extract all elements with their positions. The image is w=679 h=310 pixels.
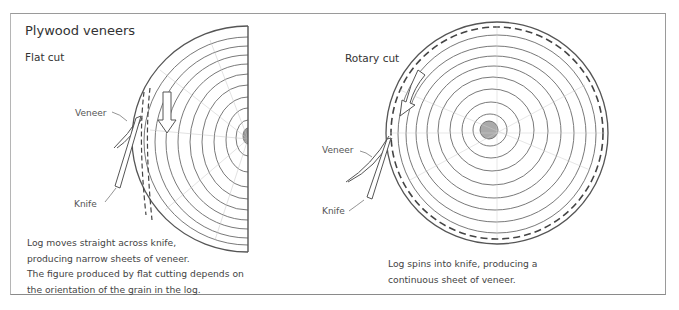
rotary-veneer-shape (346, 136, 392, 182)
caption-line: the orientation of the grain in the log. (27, 282, 244, 298)
flat-cut-knife-shape (115, 116, 141, 188)
caption-line: Log spins into knife, producing a (388, 256, 537, 272)
leader-lines-rotary (349, 151, 372, 211)
rotary-cut-knife-label: Knife (322, 206, 345, 216)
rotary-cut-heading: Rotary cut (345, 52, 399, 64)
arrow-down-icon (158, 92, 176, 133)
caption-line: producing narrow sheets of veneer. (27, 251, 244, 267)
arrow-curved-counterclockwise-icon (400, 70, 425, 116)
rotary-cut-caption: Log spins into knife, producing a contin… (388, 256, 537, 287)
caption-line: Log moves straight across knife, (27, 235, 244, 251)
caption-line: continuous sheet of veneer. (388, 272, 537, 288)
flat-cut-caption: Log moves straight across knife, produci… (27, 235, 244, 297)
flat-cut-veneer-label: Veneer (75, 108, 106, 118)
flat-cut-heading: Flat cut (25, 51, 64, 63)
rotary-cut-veneer-label: Veneer (322, 145, 353, 155)
flat-cut-half-log (132, 26, 364, 252)
caption-line: The figure produced by flat cutting depe… (27, 266, 244, 282)
rotary-cut-log (386, 22, 608, 244)
rotary-knife-shape (367, 138, 391, 199)
flat-cut-knife-label: Knife (74, 199, 97, 209)
figure-title: Plywood veneers (25, 23, 135, 38)
